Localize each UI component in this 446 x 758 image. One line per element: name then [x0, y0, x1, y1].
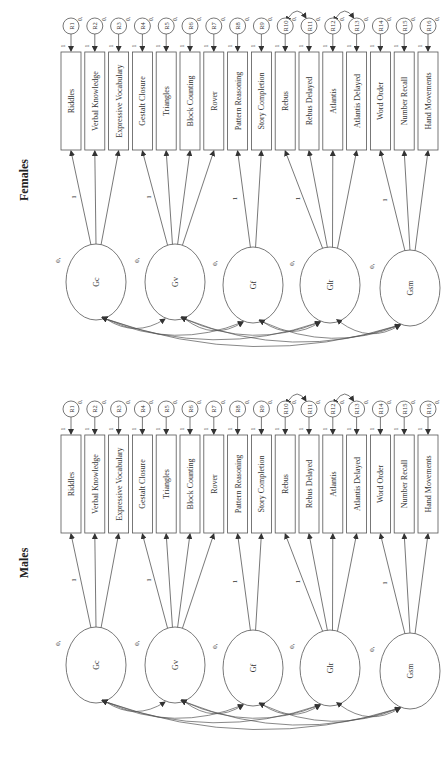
residual-mean-label: 0,: [220, 399, 226, 404]
indicator-label: Word Order: [376, 82, 385, 121]
factor-covariance-arrow: [106, 702, 165, 712]
fixed-loading-label: 1: [145, 195, 153, 199]
loading-path-arrow: [338, 534, 357, 631]
loading-path-arrow: [238, 534, 251, 631]
indicator-label: Rebus Delayed: [305, 77, 314, 126]
residual-path-label: 1: [155, 428, 161, 431]
factor-label: Gsm: [406, 280, 415, 296]
residual-path-label: 1: [203, 428, 209, 431]
residual-label: R5: [163, 405, 170, 413]
indicator-label: Atlantis: [329, 88, 338, 113]
residual-path-label: 1: [179, 45, 185, 48]
fixed-loading-label: 1: [381, 198, 389, 202]
residual-label: R16: [425, 403, 432, 415]
indicator-label: Expressive Vocabulary: [115, 447, 124, 520]
factor-label: Gc: [92, 660, 101, 670]
residual-mean-label: 0,: [434, 16, 440, 21]
residual-label: R9: [258, 405, 265, 413]
loading-path-arrow: [285, 151, 322, 248]
factor-label: Gv: [171, 277, 180, 287]
factor-covariance-arrow: [263, 322, 400, 338]
panel-title: Males: [17, 547, 31, 578]
residual-path-label: 1: [393, 428, 399, 431]
residual-mean-label: 0,: [77, 16, 83, 21]
loading-path-arrow: [404, 534, 410, 634]
loading-path-arrow: [285, 534, 322, 631]
fixed-loading-label: 1: [70, 195, 78, 199]
factor-covariance-arrow: [106, 702, 243, 718]
factor-mean-label: 0,: [133, 257, 141, 263]
residual-mean-label: 0,: [196, 399, 202, 404]
indicator-label: Hand Movements: [424, 455, 433, 512]
residual-mean-label: 0,: [244, 399, 250, 404]
residual-mean-label: 0,: [172, 16, 178, 21]
residual-label: R14: [377, 20, 384, 32]
fixed-loading-label: 1: [231, 196, 239, 200]
factor-label: Glr: [326, 662, 335, 673]
residual-path-label: 1: [346, 45, 352, 48]
residual-mean-label: 0,: [125, 16, 131, 21]
residual-label: R4: [139, 21, 146, 29]
factor-label: Gc: [92, 277, 101, 287]
residual-label: R3: [115, 22, 122, 30]
loading-path-arrow: [101, 151, 119, 245]
residual-label: R10: [282, 21, 289, 32]
residual-label: R1: [68, 22, 75, 30]
residual-mean-label: 0,: [125, 399, 131, 404]
factor-mean-label: 0,: [288, 643, 296, 649]
residual-label: R16: [425, 20, 432, 32]
residual-path-label: 1: [274, 45, 280, 48]
indicator-label: Atlantis Delayed: [353, 74, 362, 128]
residual-path-label: 1: [84, 45, 90, 48]
residual-label: R13: [353, 404, 360, 415]
indicator-label: Gestalt Closure: [138, 459, 147, 509]
fixed-loading-label: 1: [70, 578, 78, 582]
residual-path-label: 1: [131, 428, 137, 431]
residual-path-label: 1: [393, 45, 399, 48]
residual-path-label: 1: [131, 45, 137, 48]
indicator-label: Number Recall: [400, 459, 409, 508]
residual-label: R12: [329, 404, 336, 415]
indicator-label: Expressive Vocabulary: [115, 64, 124, 137]
factor-mean-label: 0,: [133, 640, 141, 646]
residual-label: R9: [258, 22, 265, 30]
indicator-label: Verbal Knowledge: [91, 454, 100, 514]
factor-covariance-arrow: [106, 319, 243, 335]
loading-path-arrow: [309, 534, 328, 631]
residual-mean-label: 0,: [267, 16, 273, 21]
residual-label: R2: [91, 405, 98, 413]
factor-label: Gf: [249, 280, 258, 289]
loading-path-arrow: [256, 534, 262, 631]
residual-mean-label: 0,: [291, 16, 297, 21]
factor-label: Glr: [326, 279, 335, 290]
fixed-loading-label: 1: [294, 196, 302, 200]
panel-males: MalesR10,1RiddlesR20,1Verbal KnowledgeR3…: [17, 394, 440, 730]
indicator-label: Story Completion: [257, 455, 266, 512]
indicator-label: Pattern Reasoning: [234, 455, 243, 513]
residual-path-label: 1: [84, 428, 90, 431]
indicator-label: Hand Movements: [424, 72, 433, 129]
factor-mean-label: 0,: [368, 263, 376, 269]
residual-path-label: 1: [298, 428, 304, 431]
indicator-label: Block Counting: [186, 76, 195, 127]
residual-path-label: 1: [274, 428, 280, 431]
loading-path-arrow: [178, 534, 191, 628]
residual-mean-label: 0,: [172, 399, 178, 404]
residual-path-label: 1: [60, 428, 66, 431]
residual-label: R10: [282, 404, 289, 415]
residual-path-label: 1: [60, 45, 66, 48]
factor-covariance-arrow: [263, 705, 400, 721]
indicator-label: Story Completion: [257, 72, 266, 129]
loading-path-arrow: [95, 534, 96, 628]
indicator-label: Riddles: [67, 472, 76, 496]
residual-label: R14: [377, 403, 384, 415]
factor-covariance-arrow: [263, 322, 320, 332]
loading-path-arrow: [166, 534, 172, 628]
residual-label: R15: [401, 21, 408, 32]
factor-mean-label: 0,: [288, 260, 296, 266]
residual-mean-label: 0,: [291, 399, 297, 404]
residual-path-label: 1: [108, 428, 114, 431]
residual-path-label: 1: [322, 428, 328, 431]
factor-mean-label: 0,: [211, 260, 219, 266]
residual-label: R3: [115, 405, 122, 413]
